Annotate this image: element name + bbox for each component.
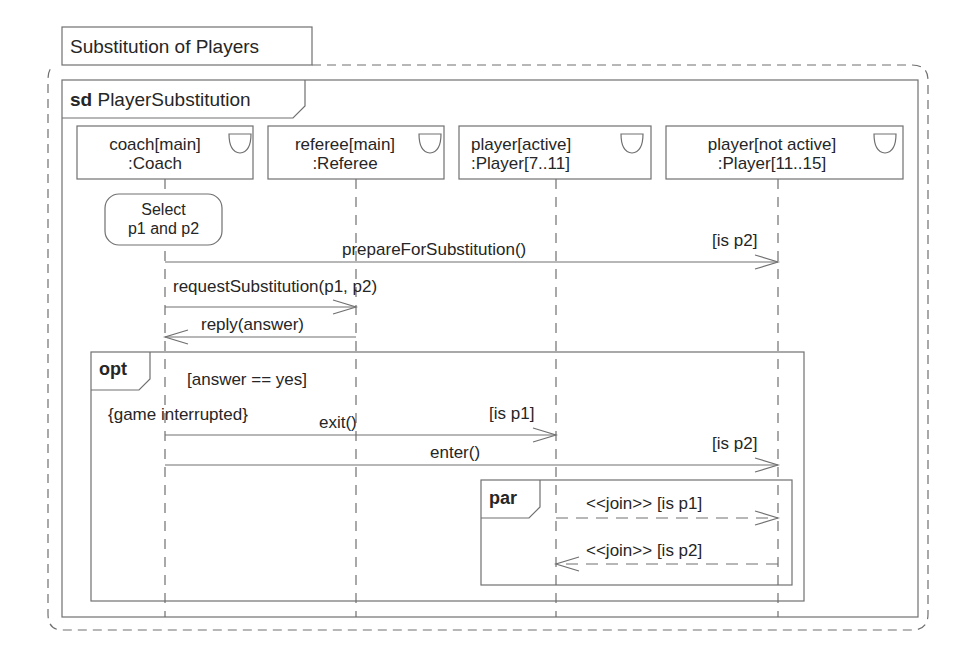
frame-label: sd PlayerSubstitution <box>70 89 251 110</box>
lifeline-label-coach: coach[main] :Coach <box>80 135 230 173</box>
message-label-join-p2: <<join>> [is p2] <box>586 541 702 560</box>
message-label-enter: enter() <box>430 443 480 462</box>
sequence-diagram: Substitution of Players sd PlayerSubstit… <box>0 0 963 659</box>
par-operator: par <box>489 489 517 508</box>
action-line1: Select <box>105 200 222 219</box>
opt-operator: opt <box>99 360 127 379</box>
lifeline-name: player[not active] <box>672 135 872 154</box>
message-label-request: requestSubstitution(p1, p2) <box>173 277 377 296</box>
message-guard-exit: [is p1] <box>489 404 534 423</box>
message-label-join-p1: <<join>> [is p1] <box>586 494 702 513</box>
lifeline-name: coach[main] <box>80 135 230 154</box>
lifeline-type: :Coach <box>80 154 230 173</box>
control-icon <box>874 134 896 153</box>
frame-keyword: sd <box>70 89 92 110</box>
lifeline-type: :Referee <box>270 154 420 173</box>
message-guard-prepare: [is p2] <box>712 231 757 250</box>
message-label-exit: exit() <box>319 413 357 432</box>
diagram-title: Substitution of Players <box>70 36 259 57</box>
control-icon <box>419 134 441 153</box>
opt-guard: [answer == yes] <box>187 370 307 389</box>
frame-name: PlayerSubstitution <box>97 89 250 110</box>
lifeline-name: referee[main] <box>270 135 420 154</box>
lifeline-type: :Player[7..11] <box>471 154 571 173</box>
message-label-reply: reply(answer) <box>201 315 304 334</box>
lifeline-name: player[active] <box>471 135 571 154</box>
lifeline-label-player-not-active: player[not active] :Player[11..15] <box>672 135 872 173</box>
control-icon <box>229 134 251 153</box>
action-label: Select p1 and p2 <box>105 200 222 238</box>
lifeline-label-referee: referee[main] :Referee <box>270 135 420 173</box>
action-line2: p1 and p2 <box>105 219 222 238</box>
message-guard-enter: [is p2] <box>712 434 757 453</box>
lifeline-type: :Player[11..15] <box>672 154 872 173</box>
lifeline-label-player-active: player[active] :Player[7..11] <box>471 135 571 173</box>
control-icon <box>621 134 643 153</box>
message-label-prepare: prepareForSubstitution() <box>342 240 526 259</box>
opt-constraint: {game interrupted} <box>108 405 248 424</box>
